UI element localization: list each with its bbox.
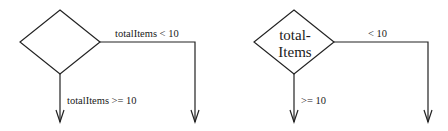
decision-diamond	[20, 10, 100, 74]
right-branch-line	[100, 42, 195, 122]
right-branch-label: < 10	[368, 28, 387, 39]
flowchart-canvas: totalItems < 10 totalItems >= 10 total- …	[0, 0, 448, 131]
right-branch-label: totalItems < 10	[115, 28, 179, 39]
down-branch-label: >= 10	[301, 95, 326, 106]
decision-text-line1: total-	[279, 27, 311, 43]
right-branch-line	[334, 42, 428, 122]
down-branch-label: totalItems >= 10	[67, 95, 137, 106]
decision-text-line2: Items	[278, 44, 311, 60]
